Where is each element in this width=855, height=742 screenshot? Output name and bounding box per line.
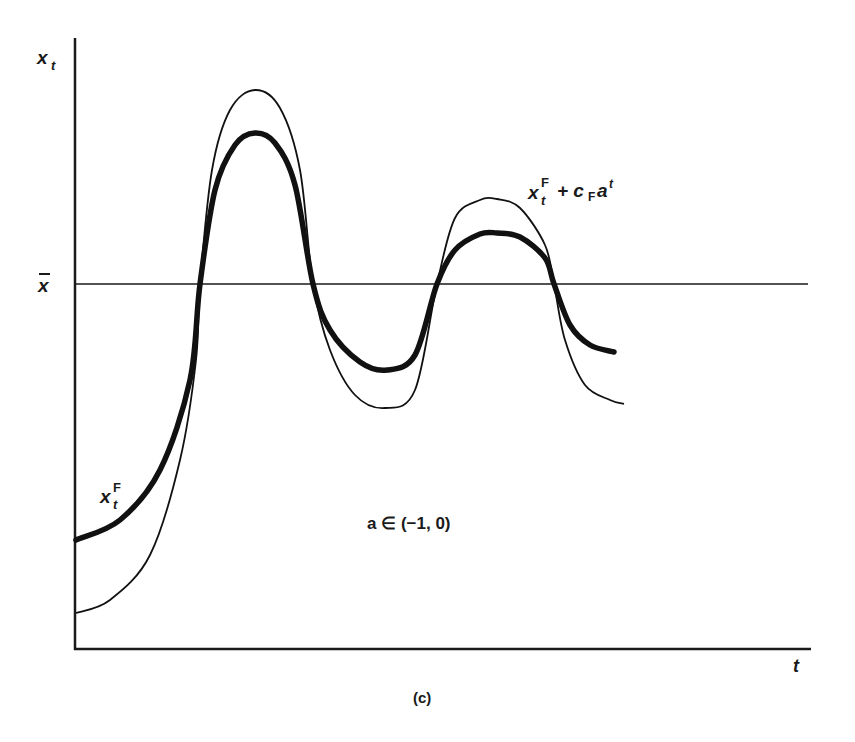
adjusted-series-label-plus: + c — [557, 180, 584, 201]
y-axis-label-sub: t — [51, 58, 56, 73]
adjusted-series-label-x: x — [527, 182, 540, 203]
xbar-label: x — [37, 275, 50, 296]
chart: x t x t x F t + c F a t x F t a ∈ (−1, 0… — [0, 0, 855, 742]
adjusted-series-label-sub: t — [541, 193, 546, 208]
adjusted-series-label-sup: F — [541, 175, 549, 190]
fundamental-series-label-sub: t — [113, 497, 118, 512]
y-axis-label: x — [36, 47, 49, 68]
fundamental-series-label-x: x — [99, 486, 112, 507]
adjusted-series-label-csub: F — [588, 190, 595, 204]
panel-caption: (c) — [413, 689, 431, 706]
parameter-annotation: a ∈ (−1, 0) — [367, 514, 451, 533]
x-axis-label: t — [793, 656, 800, 676]
adjusted-series-label-asup: t — [609, 177, 614, 191]
adjusted-series-label-a: a — [597, 180, 608, 201]
fundamental-series-label-sup: F — [113, 480, 121, 495]
